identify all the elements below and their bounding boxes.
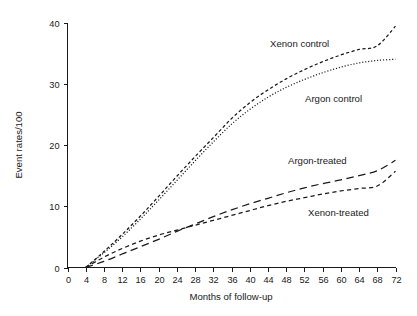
x-tick-label: 60	[336, 275, 346, 285]
series-line-xenon-treated	[86, 171, 396, 267]
x-tick-label: 0	[66, 275, 71, 285]
x-tick-label: 52	[299, 275, 309, 285]
x-tick-label: 4	[84, 275, 89, 285]
x-tick-label: 72	[391, 275, 401, 285]
x-tick-label: 44	[263, 275, 273, 285]
y-tick-label: 40	[49, 19, 59, 29]
x-tick-label: 40	[245, 275, 255, 285]
x-axis-title: Months of follow-up	[189, 291, 272, 302]
y-tick-label: 10	[49, 202, 59, 212]
series-label-xenon-treated: Xenon-treated	[308, 207, 369, 218]
x-tick-label: 20	[154, 275, 164, 285]
y-tick-label: 0	[54, 264, 59, 274]
axis-group	[68, 23, 396, 268]
series-line-argon-control	[86, 59, 396, 267]
x-tick-label: 56	[318, 275, 328, 285]
x-tick-label: 64	[354, 275, 364, 285]
series-label-xenon-control: Xenon control	[270, 38, 329, 49]
x-axis-ticks: 04812162024283236404448525660646872	[66, 268, 402, 285]
chart-figure: 010203040 048121620242832364044485256606…	[0, 0, 417, 316]
y-axis-title: Event rates/100	[13, 111, 24, 178]
line-chart-plot: 010203040 048121620242832364044485256606…	[0, 0, 417, 316]
x-tick-label: 12	[117, 275, 127, 285]
y-axis-ticks: 010203040	[49, 19, 67, 274]
x-tick-label: 16	[135, 275, 145, 285]
x-tick-label: 28	[190, 275, 200, 285]
x-tick-label: 36	[227, 275, 237, 285]
series-label-argon-control: Argon control	[305, 93, 362, 104]
series-line-xenon-control	[86, 26, 396, 267]
x-tick-label: 68	[372, 275, 382, 285]
x-tick-label: 8	[102, 275, 107, 285]
x-tick-label: 32	[208, 275, 218, 285]
x-tick-label: 24	[172, 275, 182, 285]
series-group	[86, 26, 396, 267]
y-tick-label: 20	[49, 141, 59, 151]
series-label-argon-treated: Argon-treated	[288, 155, 347, 166]
y-tick-label: 30	[49, 80, 59, 90]
x-tick-label: 48	[281, 275, 291, 285]
